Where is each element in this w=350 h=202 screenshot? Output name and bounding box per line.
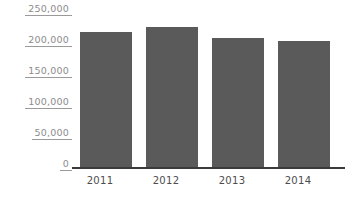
bar-chart: 250,000 200,000 150,000 100,000 50,000 0…	[0, 0, 350, 202]
x-axis-label-text: 2014	[285, 175, 312, 186]
y-axis-tick-100000: 100,000	[6, 96, 72, 109]
y-axis-tick-200000: 200,000	[6, 34, 72, 47]
x-axis-label-text: 2013	[219, 175, 246, 186]
x-axis-label-2013: 2013	[200, 175, 264, 187]
bar-2014	[278, 41, 330, 168]
y-axis-tick-label: 0	[60, 158, 72, 171]
y-axis-tick-label: 150,000	[25, 65, 72, 78]
y-axis-tick-label: 50,000	[32, 127, 72, 140]
y-axis-tick-label: 250,000	[25, 3, 72, 16]
y-axis-tick-label: 100,000	[25, 96, 72, 109]
x-axis-label-text: 2012	[153, 175, 180, 186]
x-axis-label-4: 2014	[266, 175, 330, 187]
bar-2012	[146, 27, 198, 168]
x-axis-label-2011: 2011	[68, 175, 132, 187]
x-axis-label-text: 2011	[87, 175, 114, 186]
y-axis-tick-250000: 250,000	[6, 3, 72, 16]
x-axis-label-2012: 2012	[134, 175, 198, 187]
x-axis-line	[72, 167, 345, 169]
plot-area	[72, 0, 350, 168]
y-axis-tick-50000: 50,000	[6, 127, 72, 140]
y-axis-tick-label: 200,000	[25, 34, 72, 47]
bar-2013	[212, 38, 264, 168]
bar-2011	[80, 32, 132, 168]
y-axis-tick-150000: 150,000	[6, 65, 72, 78]
y-axis-tick-0: 0	[6, 158, 72, 171]
